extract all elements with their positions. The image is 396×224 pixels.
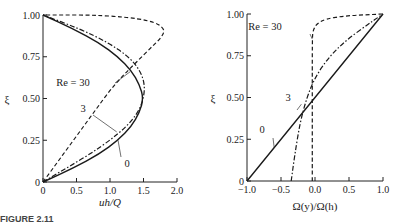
x-tick-label: 0.0	[309, 184, 322, 195]
figure-canvas: 00.51.01.52.000.250.500.751.00uh/Qξ03Re …	[0, 0, 396, 224]
y-tick-label: 0.25	[227, 134, 245, 145]
y-tick-label: 0	[239, 176, 244, 187]
y-tick-label: 1.00	[227, 9, 245, 20]
curve-label: 3	[80, 103, 85, 114]
figure-caption: FIGURE 2.11	[0, 214, 54, 224]
x-axis-title: uh/Q	[99, 196, 121, 208]
curve-label: Re = 30	[56, 77, 89, 88]
y-tick-label: 0.25	[23, 135, 41, 146]
curve-label: 0	[124, 158, 129, 169]
x-tick-label: 1.0	[104, 185, 117, 196]
series-line-0	[247, 14, 383, 181]
series-line-3	[291, 14, 383, 181]
curve-label: 0	[259, 124, 264, 135]
x-tick-label: 0.5	[70, 185, 83, 196]
y-tick-label: 1.00	[23, 10, 41, 21]
y-tick-label: 0	[35, 177, 40, 188]
x-tick-label: 1.0	[377, 184, 390, 195]
x-tick-label: 1.5	[137, 185, 150, 196]
y-tick-label: 0.75	[23, 51, 41, 62]
series-line-0	[43, 15, 142, 182]
x-axis-title: Ω(y)/Ω(h)	[292, 200, 337, 213]
y-tick-label: 0.50	[23, 93, 41, 104]
series-line-re30	[312, 14, 383, 181]
x-tick-label: 2.0	[171, 185, 184, 196]
x-tick-label: 0.5	[343, 184, 356, 195]
y-axis-title: ξ	[211, 92, 216, 105]
y-tick-label: 0.50	[227, 92, 245, 103]
y-axis-title: ξ	[5, 93, 10, 106]
curve-label: 3	[285, 92, 290, 103]
x-tick-label: 0	[41, 185, 46, 196]
chart-vorticity-profile: −1.0−0.50.00.51.000.250.500.751.00Ω(y)/Ω…	[211, 9, 390, 214]
x-tick-label: −0.5	[272, 184, 290, 195]
curve-label: Re = 30	[248, 21, 281, 32]
series-line-re30	[43, 15, 164, 182]
chart-velocity-profile: 00.51.01.52.000.250.500.751.00uh/Qξ03Re …	[5, 10, 184, 209]
y-tick-label: 0.75	[227, 50, 245, 61]
